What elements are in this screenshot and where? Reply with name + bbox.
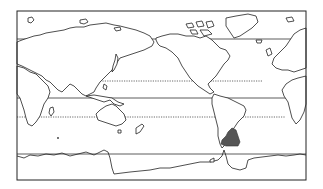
novaya-zemlya [80,19,88,24]
tasmania [118,130,121,133]
pacific-island-dot [57,137,59,139]
new-zealand [136,124,144,134]
norway-islands [286,17,294,22]
europe-landmass [272,28,306,72]
madagascar [49,107,54,116]
iceland [256,40,262,43]
canadian-arctic-islands-5 [200,30,212,36]
canadian-arctic-islands-1 [186,23,194,28]
indonesia-islands [86,95,124,106]
world-map [0,0,323,189]
antarctic-peninsula-island [210,158,214,162]
world-map-svg [0,0,323,189]
africa-west-coast [282,76,306,124]
great-britain [266,48,272,56]
philippines [103,84,107,90]
north-america-landmass [156,34,230,94]
svalbard-islands [28,17,34,23]
greenland [226,14,258,38]
canadian-arctic-islands-4 [190,30,198,34]
canadian-arctic-islands-2 [196,21,204,27]
canadian-arctic-islands-3 [206,21,214,28]
australia-landmass [96,104,126,126]
